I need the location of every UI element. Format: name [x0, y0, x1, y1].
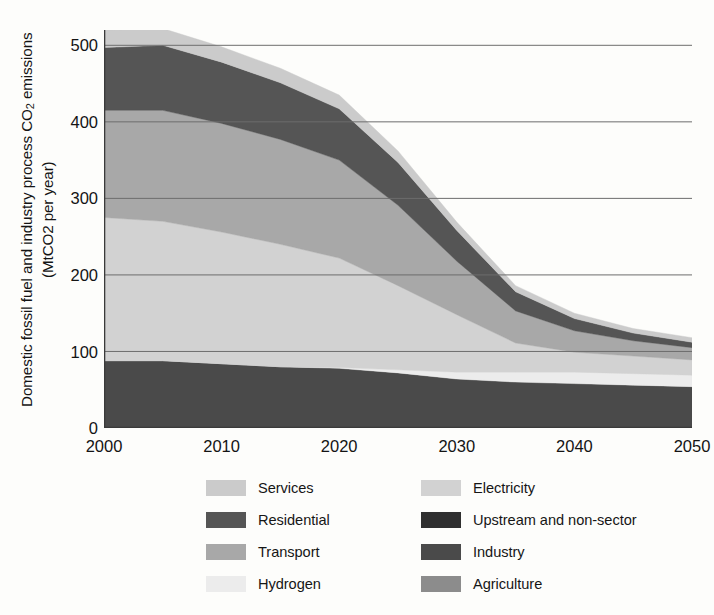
legend-row: ServicesElectricity: [206, 472, 636, 504]
chart-figure: Domestic fossil fuel and industry proces…: [0, 0, 714, 615]
legend-label-hydrogen: Hydrogen: [258, 576, 321, 592]
y-axis-tick-labels: 0100200300400500: [44, 30, 98, 428]
stacked-area-plot: [104, 30, 692, 428]
legend-row: ResidentialUpstream and non-sector: [206, 504, 636, 536]
legend-item-transport[interactable]: Transport: [206, 536, 421, 568]
x-tick-label-2030: 2030: [438, 437, 475, 456]
plot-area: [104, 30, 692, 428]
y-axis-title-line1: Domestic fossil fuel and industry proces…: [17, 109, 34, 407]
legend-label-upstream-and-non-sector: Upstream and non-sector: [473, 512, 637, 528]
legend-swatch-agriculture: [421, 576, 461, 592]
legend-item-residential[interactable]: Residential: [206, 504, 421, 536]
legend-swatch-transport: [206, 544, 246, 560]
legend-label-services: Services: [258, 480, 314, 496]
y-tick-label-400: 400: [52, 112, 98, 131]
x-tick-label-2020: 2020: [321, 437, 358, 456]
y-tick-label-0: 0: [52, 419, 98, 438]
legend-item-electricity[interactable]: Electricity: [421, 472, 636, 504]
legend-swatch-industry: [421, 544, 461, 560]
y-tick-label-300: 300: [52, 189, 98, 208]
y-tick-label-200: 200: [52, 265, 98, 284]
legend-item-services[interactable]: Services: [206, 472, 421, 504]
legend-item-hydrogen[interactable]: Hydrogen: [206, 568, 421, 600]
x-tick-label-2040: 2040: [556, 437, 593, 456]
y-tick-label-100: 100: [52, 342, 98, 361]
y-axis-title-subscript: 2: [24, 103, 36, 109]
area-layers: [104, 30, 692, 428]
legend-row: TransportIndustry: [206, 536, 636, 568]
legend-row: HydrogenAgriculture: [206, 568, 636, 600]
x-tick-label-2000: 2000: [86, 437, 123, 456]
legend-swatch-residential: [206, 512, 246, 528]
legend-label-agriculture: Agriculture: [473, 576, 542, 592]
legend-swatch-hydrogen: [206, 576, 246, 592]
x-tick-label-2010: 2010: [203, 437, 240, 456]
x-tick-label-2050: 2050: [674, 437, 711, 456]
legend-label-transport: Transport: [258, 544, 319, 560]
legend-label-residential: Residential: [258, 512, 330, 528]
legend-item-industry[interactable]: Industry: [421, 536, 636, 568]
legend-swatch-upstream-and-non-sector: [421, 512, 461, 528]
x-axis-tick-labels: 200020102020203020402050: [104, 437, 692, 463]
legend-label-industry: Industry: [473, 544, 525, 560]
legend-swatch-services: [206, 480, 246, 496]
legend-label-electricity: Electricity: [473, 480, 535, 496]
legend-item-agriculture[interactable]: Agriculture: [421, 568, 636, 600]
legend-swatch-electricity: [421, 480, 461, 496]
y-axis-title-line1-tail: emissions: [17, 33, 34, 104]
legend-item-upstream-and-non-sector[interactable]: Upstream and non-sector: [421, 504, 636, 536]
chart-legend: ServicesElectricityResidentialUpstream a…: [206, 472, 636, 600]
y-tick-label-500: 500: [52, 36, 98, 55]
